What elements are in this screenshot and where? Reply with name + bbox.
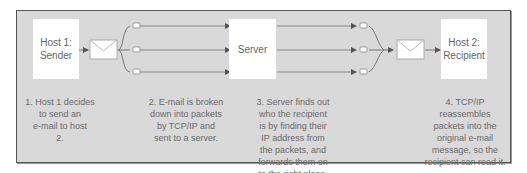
sender-node: Host 1: Sender [33, 19, 79, 79]
caption-step-4: 4. TCP/IP reassembles packets into the o… [420, 96, 510, 168]
recipient-label-line1: Host 2: [448, 36, 480, 49]
sender-label-line2: Sender [40, 49, 72, 62]
sender-label-line1: Host 1: [40, 36, 72, 49]
caption-step-1: 1. Host 1 decides to send an e-mail to h… [22, 96, 98, 144]
caption-step-3: 3. Server finds out who the recipient is… [252, 96, 334, 173]
server-label: Server [238, 43, 267, 56]
envelope-icon [90, 40, 117, 59]
packet-icon [133, 23, 140, 74]
server-node: Server [229, 19, 276, 79]
caption-step-2: 2. E-mail is broken down into packets by… [144, 96, 228, 144]
recipient-label-line2: Recipient [443, 49, 485, 62]
envelope-icon [397, 40, 424, 59]
packet-icon [360, 23, 367, 74]
recipient-node: Host 2: Recipient [441, 19, 487, 79]
